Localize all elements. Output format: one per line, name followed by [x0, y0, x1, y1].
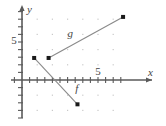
segment-label-g: g [68, 27, 74, 39]
grid-dot [97, 19, 98, 20]
grid-dot [97, 34, 98, 35]
grid-dot [52, 19, 53, 20]
x-axis-tick-label-5: 5 [95, 65, 101, 77]
grid-dot-layer [37, 19, 114, 111]
grid-dot [82, 110, 83, 111]
grid-dot [97, 49, 98, 50]
line-segment-f [34, 58, 77, 104]
endpoint-marker-f [75, 102, 79, 106]
grid-dot [52, 34, 53, 35]
grid-dot [37, 19, 38, 20]
endpoint-marker-g [121, 15, 125, 19]
grid-dot [37, 110, 38, 111]
grid-dot [37, 34, 38, 35]
grid-dot [67, 19, 68, 20]
endpoint-marker-f [32, 56, 36, 60]
grid-dot [113, 19, 114, 20]
endpoint-marker-layer [32, 15, 125, 106]
x-axis-label: x [147, 66, 153, 78]
coordinate-plane-figure: y x 5 5 g f [0, 0, 166, 126]
y-axis-label: y [26, 3, 32, 15]
grid-dot [67, 64, 68, 65]
grid-dot [113, 95, 114, 96]
grid-dot [113, 49, 114, 50]
plot-svg: y x 5 5 g f [0, 0, 166, 126]
grid-dot [37, 64, 38, 65]
line-segment-g [49, 17, 123, 58]
axes-layer [11, 5, 152, 118]
grid-dot [82, 34, 83, 35]
grid-dot [82, 19, 83, 20]
endpoint-marker-g [47, 56, 51, 60]
grid-dot [67, 49, 68, 50]
segment-label-f: f [75, 82, 80, 94]
y-axis-tick-label-5: 5 [11, 34, 17, 46]
grid-dot [113, 110, 114, 111]
grid-dot [113, 34, 114, 35]
grid-dot [52, 95, 53, 96]
grid-dot [52, 64, 53, 65]
x-axis-arrow-icon [146, 77, 152, 82]
grid-dot [37, 95, 38, 96]
grid-dot [67, 110, 68, 111]
grid-dot [113, 64, 114, 65]
y-axis-arrow-icon [19, 5, 24, 11]
grid-dot [52, 49, 53, 50]
grid-dot [52, 110, 53, 111]
grid-dot [97, 95, 98, 96]
grid-dot [37, 49, 38, 50]
grid-dot [97, 110, 98, 111]
line-segment-layer [34, 17, 123, 104]
grid-dot [82, 49, 83, 50]
grid-dot [82, 64, 83, 65]
grid-dot [82, 95, 83, 96]
